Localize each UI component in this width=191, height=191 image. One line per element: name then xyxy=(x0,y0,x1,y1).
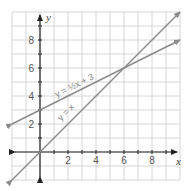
x-tick-label: 2 xyxy=(65,155,71,166)
y-tick-label: 6 xyxy=(28,63,34,74)
x-tick-label: 6 xyxy=(121,155,127,166)
x-tick-label: 4 xyxy=(93,155,99,166)
y-tick-label: 4 xyxy=(28,91,34,102)
y-tick-label: 2 xyxy=(28,119,34,130)
y-tick-label: 8 xyxy=(28,35,34,46)
x-tick-label: 8 xyxy=(149,155,155,166)
y-axis-label: y xyxy=(45,11,51,23)
x-axis-label: x xyxy=(175,155,181,167)
labels: y = ½x + 3y = x xyxy=(53,72,95,123)
chart: 24682468xy y = ½x + 3y = x xyxy=(0,0,191,191)
